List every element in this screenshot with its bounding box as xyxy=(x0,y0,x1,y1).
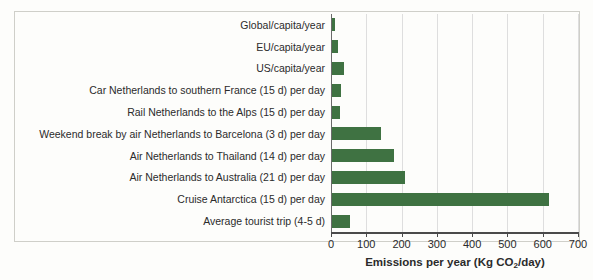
x-axis-title-subscript: 2 xyxy=(513,261,517,270)
bar[interactable] xyxy=(332,127,381,140)
x-tick-700 xyxy=(578,232,579,237)
category-label: Rail Netherlands to the Alps (15 d) per … xyxy=(5,106,325,118)
bar[interactable] xyxy=(332,62,344,75)
bar[interactable] xyxy=(332,40,338,53)
bar-row: Weekend break by air Netherlands to Barc… xyxy=(0,123,593,145)
x-tick-label-100: 100 xyxy=(357,238,375,250)
category-label: Air Netherlands to Australia (21 d) per … xyxy=(5,171,325,183)
x-tick-label-300: 300 xyxy=(428,238,446,250)
bar-row: Rail Netherlands to the Alps (15 d) per … xyxy=(0,101,593,123)
x-tick-label-200: 200 xyxy=(392,238,410,250)
category-label: EU/capita/year xyxy=(5,41,325,53)
category-label: Cruise Antarctica (15 d) per day xyxy=(5,193,325,205)
x-tick-400 xyxy=(472,232,473,237)
x-axis-title: Emissions per year (Kg CO2/day) xyxy=(331,256,579,268)
category-label: Air Netherlands to Thailand (14 d) per d… xyxy=(5,150,325,162)
bar-row: Average tourist trip (4-5 d) xyxy=(0,210,593,232)
bar-row: Air Netherlands to Australia (21 d) per … xyxy=(0,167,593,189)
x-tick-200 xyxy=(402,232,403,237)
category-label: Average tourist trip (4-5 d) xyxy=(5,215,325,227)
x-tick-100 xyxy=(366,232,367,237)
bar[interactable] xyxy=(332,18,335,31)
bar-row: EU/capita/year xyxy=(0,36,593,58)
category-label: Weekend break by air Netherlands to Barc… xyxy=(5,128,325,140)
bar[interactable] xyxy=(332,193,549,206)
x-tick-label-600: 600 xyxy=(534,238,552,250)
bar-row: US/capita/year xyxy=(0,58,593,80)
category-label: US/capita/year xyxy=(5,62,325,74)
x-tick-500 xyxy=(507,232,508,237)
bar[interactable] xyxy=(332,171,405,184)
x-tick-label-400: 400 xyxy=(463,238,481,250)
bar[interactable] xyxy=(332,149,394,162)
category-label: Car Netherlands to southern France (15 d… xyxy=(5,84,325,96)
bar-row: Cruise Antarctica (15 d) per day xyxy=(0,188,593,210)
bar-row: Air Netherlands to Thailand (14 d) per d… xyxy=(0,145,593,167)
x-tick-label-0: 0 xyxy=(328,238,334,250)
x-tick-label-500: 500 xyxy=(498,238,516,250)
chart-figure: Global/capita/yearEU/capita/yearUS/capit… xyxy=(0,0,593,280)
bar-row: Car Netherlands to southern France (15 d… xyxy=(0,79,593,101)
x-tick-600 xyxy=(543,232,544,237)
bar-rows: Global/capita/yearEU/capita/yearUS/capit… xyxy=(0,14,593,232)
category-label: Global/capita/year xyxy=(5,19,325,31)
x-tick-label-700: 700 xyxy=(569,238,587,250)
bar[interactable] xyxy=(332,106,340,119)
x-axis-title-prefix: Emissions per year (Kg CO xyxy=(365,256,513,268)
x-axis-title-suffix: /day) xyxy=(518,256,545,268)
bar[interactable] xyxy=(332,84,341,97)
x-tick-300 xyxy=(437,232,438,237)
bar-row: Global/capita/year xyxy=(0,14,593,36)
x-tick-0 xyxy=(331,232,332,237)
bar[interactable] xyxy=(332,215,350,228)
